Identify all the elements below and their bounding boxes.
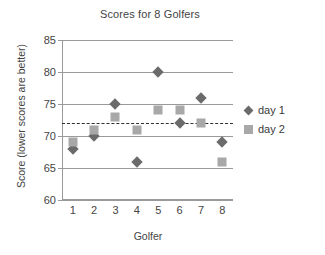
data-point-day-1: [217, 137, 228, 148]
data-point-day-1: [195, 92, 206, 103]
x-tick-label: 1: [70, 204, 76, 216]
data-point-day-1: [131, 156, 142, 167]
x-tick-label: 3: [112, 204, 118, 216]
y-tick-mark: [58, 136, 62, 137]
legend-label: day 2: [258, 123, 285, 135]
gridline: [62, 200, 233, 201]
data-point-day-1: [174, 118, 185, 129]
y-tick-label: 70: [44, 130, 56, 142]
data-point-day-2: [154, 106, 163, 115]
data-point-day-2: [132, 125, 141, 134]
y-tick-mark: [58, 104, 62, 105]
x-axis-title: Golfer: [62, 230, 234, 242]
data-point-day-1: [110, 98, 121, 109]
y-tick-mark: [58, 168, 62, 169]
gridline: [62, 72, 233, 73]
y-tick-mark: [58, 200, 62, 201]
y-tick-label: 75: [44, 98, 56, 110]
data-point-day-2: [196, 119, 205, 128]
gridline: [62, 104, 233, 105]
data-point-day-2: [218, 157, 227, 166]
x-tick-label: 5: [155, 204, 161, 216]
plot-area: 606570758085 12345678: [62, 40, 233, 200]
data-point-day-2: [90, 125, 99, 134]
data-point-day-2: [111, 112, 120, 121]
data-point-day-1: [153, 66, 164, 77]
x-tick-label: 6: [177, 204, 183, 216]
chart-legend: day 1day 2: [243, 100, 321, 138]
y-tick-label: 85: [44, 34, 56, 46]
legend-item-day-2[interactable]: day 2: [243, 119, 321, 138]
square-marker-icon: [243, 123, 255, 135]
y-tick-mark: [58, 72, 62, 73]
gridline: [62, 40, 233, 41]
x-tick-label: 2: [91, 204, 97, 216]
x-tick-label: 8: [219, 204, 225, 216]
y-tick-label: 80: [44, 66, 56, 78]
legend-label: day 1: [258, 104, 285, 116]
diamond-marker-icon: [243, 104, 255, 116]
data-point-day-2: [175, 106, 184, 115]
chart-title: Scores for 8 Golfers: [0, 8, 300, 20]
x-tick-label: 7: [198, 204, 204, 216]
legend-item-day-1[interactable]: day 1: [243, 100, 321, 119]
scatter-chart: Scores for 8 Golfers Score (lower scores…: [0, 0, 325, 255]
reference-line: [62, 123, 233, 124]
y-axis-title: Score (lower scores are better): [15, 32, 27, 200]
y-tick-label: 65: [44, 162, 56, 174]
y-tick-label: 60: [44, 194, 56, 206]
y-axis-line: [62, 40, 63, 200]
x-tick-label: 4: [134, 204, 140, 216]
y-tick-mark: [58, 40, 62, 41]
gridline: [62, 168, 233, 169]
data-point-day-2: [68, 138, 77, 147]
